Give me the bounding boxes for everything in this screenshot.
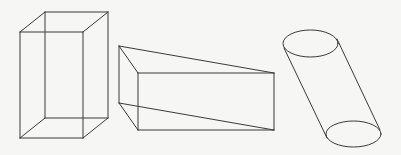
prism-edge (119, 46, 138, 73)
prism (119, 46, 274, 130)
rectangular-box-edge (20, 118, 45, 138)
prism-edge (119, 103, 274, 130)
rectangular-box (20, 12, 108, 138)
oblique-cylinder-bottom-ellipse (326, 121, 381, 147)
rectangular-box-edge (83, 12, 108, 32)
figure-canvas (0, 0, 401, 155)
rectangular-box-edge (20, 12, 45, 32)
rectangular-box-edge (83, 118, 108, 138)
solids-diagram (0, 0, 401, 155)
oblique-cylinder-edge (284, 48, 327, 138)
oblique-cylinder-edge (337, 39, 380, 130)
prism-edge (119, 103, 138, 130)
oblique-cylinder-top-ellipse (283, 30, 338, 57)
oblique-cylinder (283, 30, 381, 147)
prism-edge (119, 46, 274, 73)
